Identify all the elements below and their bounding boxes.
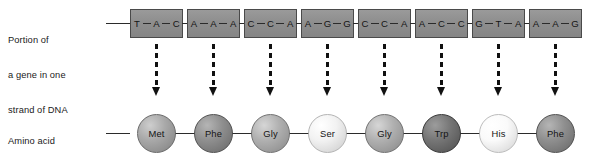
arrow-shaft (212, 44, 215, 87)
dna-base: G (473, 19, 485, 29)
arrow-head-icon (152, 87, 160, 96)
peptide-bond-connector (402, 133, 424, 134)
amino-acid-circle: Gly (365, 114, 404, 153)
dna-base: C (359, 19, 371, 29)
dna-base: G (569, 19, 581, 29)
dna-base: A (416, 19, 428, 29)
base-connector (371, 23, 379, 24)
dna-base: C (170, 19, 182, 29)
arrow-shaft (155, 44, 158, 87)
dna-base: T (131, 19, 143, 29)
translation-arrows-row (0, 44, 590, 102)
dna-base: A (550, 19, 562, 29)
arrow-head-icon (266, 87, 274, 96)
codon-box: CCA (358, 9, 411, 38)
arrow-head-icon (209, 87, 217, 96)
peptide-backbone-left (106, 133, 130, 134)
amino-acid-label: Gly (263, 129, 277, 138)
base-connector (447, 23, 455, 24)
arrow-head-icon (551, 87, 559, 96)
base-connector (485, 23, 493, 24)
dna-base: C (436, 19, 448, 29)
dna-base: A (284, 19, 296, 29)
amino-acid-circle: Met (137, 114, 176, 153)
dna-base: A (302, 19, 314, 29)
dna-base: A (208, 19, 220, 29)
arrow-head-icon (437, 87, 445, 96)
amino-acid-label: Phe (205, 129, 222, 138)
codon-box: CCA (244, 9, 297, 38)
dna-base: A (512, 19, 524, 29)
amino-acid-label: Gly (377, 129, 391, 138)
amino-acid-chain-row: MetPheGlySerGlyTrpHisPhe (0, 112, 590, 156)
dna-base: C (379, 19, 391, 29)
arrow-shaft (497, 44, 500, 87)
amino-acid-circle: Phe (194, 114, 233, 153)
dna-base: C (245, 19, 257, 29)
arrow-head-icon (380, 87, 388, 96)
dna-base: A (398, 19, 410, 29)
dna-base: A (227, 19, 239, 29)
base-connector (390, 23, 398, 24)
amino-acid-label: Ser (320, 129, 335, 138)
base-connector (333, 23, 341, 24)
amino-acid-circle: Ser (308, 114, 347, 153)
base-connector (143, 23, 151, 24)
base-connector (200, 23, 208, 24)
dna-base: C (265, 19, 277, 29)
amino-acid-label: Phe (547, 129, 564, 138)
base-connector (542, 23, 550, 24)
codon-box: GTA (472, 9, 525, 38)
arrow-shaft (383, 44, 386, 87)
base-connector (504, 23, 512, 24)
dna-base: C (455, 19, 467, 29)
dna-base: A (188, 19, 200, 29)
dna-strand-row: TACAAACCAAGGCCAACCGTAAAG (0, 9, 590, 39)
codon-box: TAC (130, 9, 183, 38)
arrow-shaft (326, 44, 329, 87)
peptide-bond-connector (345, 133, 367, 134)
codon-box: AAA (187, 9, 240, 38)
arrow-shaft (554, 44, 557, 87)
dna-base: G (322, 19, 334, 29)
arrow-shaft (269, 44, 272, 87)
peptide-bond-connector (288, 133, 310, 134)
dna-base: A (151, 19, 163, 29)
dna-base: A (530, 19, 542, 29)
codon-box: ACC (415, 9, 468, 38)
peptide-bond-connector (231, 133, 253, 134)
arrow-head-icon (494, 87, 502, 96)
codon-box: AGG (301, 9, 354, 38)
base-connector (257, 23, 265, 24)
base-connector (428, 23, 436, 24)
dna-base: G (341, 19, 353, 29)
peptide-bond-connector (516, 133, 538, 134)
arrow-head-icon (323, 87, 331, 96)
base-connector (276, 23, 284, 24)
amino-acid-circle: Phe (536, 114, 575, 153)
dna-base: T (493, 19, 505, 29)
codon-box: AAG (529, 9, 582, 38)
amino-acid-label: Met (149, 129, 165, 138)
gene-to-protein-diagram: Portion of a gene in one strand of DNA A… (0, 0, 590, 163)
amino-acid-label: Trp (434, 129, 448, 138)
peptide-bond-connector (459, 133, 481, 134)
amino-acid-circle: Gly (251, 114, 290, 153)
base-connector (162, 23, 170, 24)
dna-backbone-left (106, 23, 130, 24)
base-connector (219, 23, 227, 24)
base-connector (561, 23, 569, 24)
arrow-shaft (440, 44, 443, 87)
peptide-bond-connector (174, 133, 196, 134)
base-connector (314, 23, 322, 24)
amino-acid-circle: Trp (422, 114, 461, 153)
amino-acid-label: His (492, 129, 506, 138)
amino-acid-circle: His (479, 114, 518, 153)
